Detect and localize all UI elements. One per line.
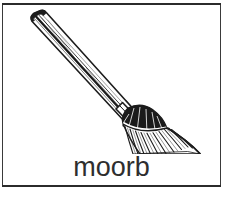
- flashcard: moorb: [0, 0, 225, 204]
- broom-illustration: [2, 4, 221, 154]
- caption: moorb: [2, 150, 221, 185]
- caption-text: moorb: [73, 154, 150, 181]
- broom-drawing: [2, 4, 221, 154]
- card-frame-bottom-rule: [2, 185, 221, 187]
- broom-brush-head: [122, 105, 201, 154]
